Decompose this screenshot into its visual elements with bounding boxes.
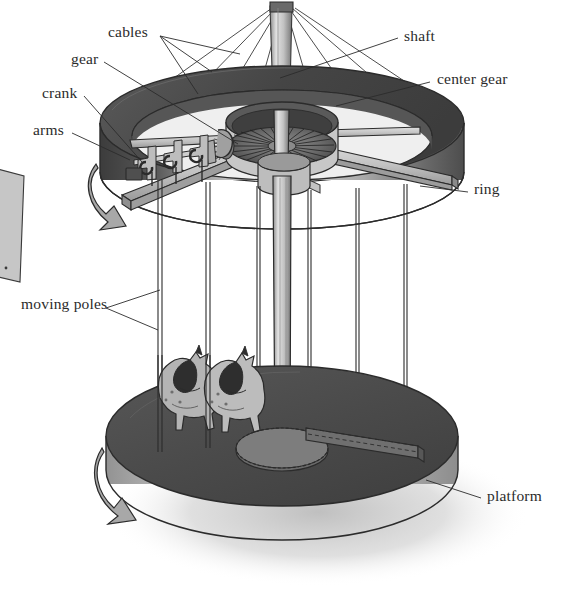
label-arms: arms xyxy=(33,122,64,138)
figure-canvas: cables gear crank arms moving poles shaf… xyxy=(0,0,562,593)
label-crank: crank xyxy=(42,85,77,101)
label-gear: gear xyxy=(71,51,98,67)
label-cables: cables xyxy=(108,24,148,40)
label-moving-poles: moving poles xyxy=(21,296,107,312)
page-edge-artifact xyxy=(0,168,24,282)
label-ring: ring xyxy=(474,181,500,197)
label-center-gear: center gear xyxy=(437,71,508,87)
label-shaft: shaft xyxy=(404,28,435,44)
label-platform: platform xyxy=(487,488,542,504)
